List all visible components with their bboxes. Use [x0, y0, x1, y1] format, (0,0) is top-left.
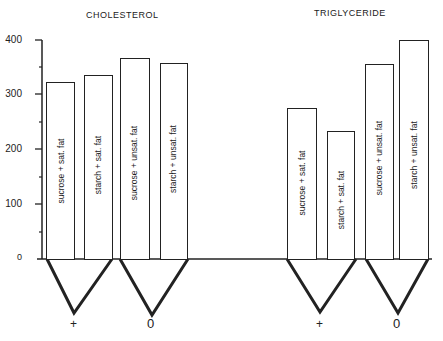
group-label-cholesterol-zero: 0	[147, 316, 154, 331]
label-triglyceride-starch-unsat-fat: starch + unsat. fat	[409, 110, 419, 200]
label-cholesterol-sucrose-sat-fat: sucrose + sat. fat	[56, 126, 66, 216]
label-triglyceride-starch-sat-fat: starch + sat. fat	[336, 155, 346, 245]
label-triglyceride-sucrose-unsat-fat: sucrose + unsat. fat	[374, 113, 384, 203]
label-triglyceride-sucrose-sat-fat: sucrose + sat. fat	[297, 138, 307, 228]
label-cholesterol-starch-unsat-fat: starch + unsat. fat	[168, 114, 178, 204]
group-label-triglyceride-zero: 0	[393, 316, 400, 331]
group-label-triglyceride-plus: +	[316, 317, 323, 331]
label-cholesterol-starch-sat-fat: starch + sat. fat	[93, 120, 103, 210]
label-cholesterol-sucrose-unsat-fat: sucrose + unsat. fat	[129, 118, 139, 208]
group-label-cholesterol-plus: +	[70, 317, 77, 331]
